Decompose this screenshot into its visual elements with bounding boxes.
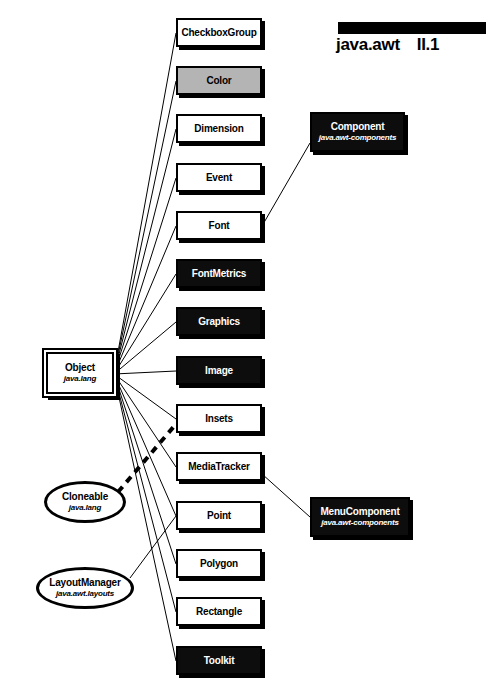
header-section-label: II.1 <box>417 35 439 55</box>
node-fontmetrics[interactable]: FontMetrics <box>176 259 262 288</box>
node-event-name: Event <box>206 172 232 183</box>
header-title: java.awt II.1 <box>336 34 492 56</box>
node-mediatracker-name: MediaTracker <box>188 461 250 472</box>
node-layoutmanager-name: LayoutManager <box>49 577 120 588</box>
node-insets-name: Insets <box>205 413 233 424</box>
header-package-label: java.awt <box>336 35 400 55</box>
node-toolkit-name: Toolkit <box>204 655 235 666</box>
edge-object-mediatracker <box>114 374 176 467</box>
edge-object-polygon <box>114 374 176 564</box>
node-component[interactable]: Component java.awt-components <box>310 112 405 152</box>
node-object[interactable]: Object java.lang <box>46 352 114 394</box>
inheritance-edges <box>114 33 176 661</box>
node-graphics-name: Graphics <box>198 316 240 327</box>
node-object-name: Object <box>65 362 95 373</box>
node-checkboxgroup-name: CheckboxGroup <box>181 27 256 38</box>
header-rule <box>338 22 486 34</box>
node-polygon-name: Polygon <box>200 558 238 569</box>
node-object-package: java.lang <box>64 374 96 383</box>
edge-object-checkboxgroup <box>114 33 176 374</box>
node-layoutmanager-package: java.awt.layouts <box>56 589 114 598</box>
edge-mediatracker-menucomponent <box>262 474 310 517</box>
node-point[interactable]: Point <box>176 501 262 530</box>
node-checkboxgroup[interactable]: CheckboxGroup <box>176 18 262 47</box>
edge-font-component <box>262 143 310 226</box>
node-color[interactable]: Color <box>176 66 262 95</box>
node-cloneable-package: java.lang <box>69 503 101 512</box>
node-polygon[interactable]: Polygon <box>176 549 262 578</box>
node-dimension-name: Dimension <box>194 123 243 134</box>
edge-object-dimension <box>114 129 176 374</box>
node-image-name: Image <box>205 365 233 376</box>
node-mediatracker[interactable]: MediaTracker <box>176 452 262 481</box>
node-event[interactable]: Event <box>176 163 262 192</box>
node-dimension[interactable]: Dimension <box>176 114 262 143</box>
node-component-package: java.awt-components <box>319 133 397 142</box>
edge-object-image <box>114 371 176 374</box>
node-toolkit[interactable]: Toolkit <box>176 646 262 675</box>
node-layoutmanager[interactable]: LayoutManager java.awt.layouts <box>36 567 134 609</box>
node-fontmetrics-name: FontMetrics <box>192 268 246 279</box>
node-component-name: Component <box>331 121 385 132</box>
node-font[interactable]: Font <box>176 211 262 240</box>
node-graphics[interactable]: Graphics <box>176 307 262 336</box>
node-rectangle[interactable]: Rectangle <box>176 597 262 626</box>
edge-object-toolkit <box>114 374 176 661</box>
diagram-page: java.awt II.1 Object java.lang Cloneable… <box>0 0 492 699</box>
node-insets[interactable]: Insets <box>176 404 262 433</box>
edge-object-font <box>114 226 176 374</box>
node-image[interactable]: Image <box>176 356 262 385</box>
edge-object-event <box>114 178 176 374</box>
node-rectangle-name: Rectangle <box>196 606 242 617</box>
node-color-name: Color <box>206 75 231 86</box>
node-cloneable-name: Cloneable <box>62 491 108 502</box>
node-menucomponent-name: MenuComponent <box>320 506 399 517</box>
node-menucomponent[interactable]: MenuComponent java.awt-components <box>310 497 410 537</box>
node-font-name: Font <box>209 220 230 231</box>
node-cloneable[interactable]: Cloneable java.lang <box>44 481 126 523</box>
node-menucomponent-package: java.awt-components <box>321 518 399 527</box>
node-point-name: Point <box>207 510 231 521</box>
